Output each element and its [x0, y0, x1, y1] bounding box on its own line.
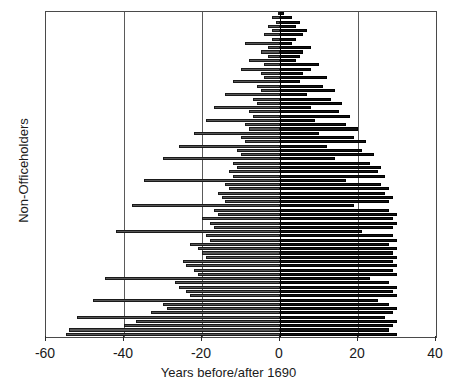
bar-before-1690 — [105, 277, 281, 280]
x-tick-label--20: -20 — [191, 345, 211, 361]
bar-before-1690 — [214, 226, 280, 229]
zero-axis-line — [280, 12, 281, 337]
bar-after-1690 — [280, 222, 397, 225]
bar-before-1690 — [194, 269, 280, 272]
bar-before-1690 — [268, 25, 280, 28]
bar-after-1690 — [280, 106, 311, 109]
bar-after-1690 — [280, 119, 315, 122]
bar-before-1690 — [257, 102, 280, 105]
bar-after-1690 — [280, 179, 346, 182]
bar-before-1690 — [241, 68, 280, 71]
bar-after-1690 — [280, 38, 296, 41]
bar-before-1690 — [272, 16, 280, 19]
x-tick-label-0: 0 — [275, 345, 283, 361]
bar-before-1690 — [136, 320, 280, 323]
bar-before-1690 — [186, 290, 280, 293]
bar-before-1690 — [261, 72, 281, 75]
bar-before-1690 — [268, 46, 280, 49]
bar-after-1690 — [280, 50, 303, 53]
bar-after-1690 — [280, 63, 319, 66]
bar-before-1690 — [179, 286, 280, 289]
bar-after-1690 — [280, 307, 397, 310]
bar-before-1690 — [198, 273, 280, 276]
bar-before-1690 — [77, 316, 280, 319]
bar-after-1690 — [280, 200, 389, 203]
bar-after-1690 — [280, 273, 397, 276]
x-tick-label--40: -40 — [113, 345, 133, 361]
bar-after-1690 — [280, 80, 300, 83]
bar-after-1690 — [280, 260, 393, 263]
bar-before-1690 — [272, 29, 280, 32]
bar-after-1690 — [280, 166, 381, 169]
bar-before-1690 — [206, 234, 280, 237]
bar-before-1690 — [198, 247, 280, 250]
x-tick-label-40: 40 — [427, 345, 443, 361]
bar-before-1690 — [245, 123, 280, 126]
bar-after-1690 — [280, 294, 397, 297]
bar-after-1690 — [280, 183, 381, 186]
bar-before-1690 — [237, 166, 280, 169]
bar-after-1690 — [280, 93, 307, 96]
plot-area — [45, 11, 437, 338]
bar-after-1690 — [280, 316, 385, 319]
bar-after-1690 — [280, 98, 331, 101]
bar-before-1690 — [233, 175, 280, 178]
bar-before-1690 — [206, 256, 280, 259]
bar-before-1690 — [264, 63, 280, 66]
bar-before-1690 — [151, 311, 280, 314]
bar-after-1690 — [280, 89, 335, 92]
bar-before-1690 — [229, 187, 280, 190]
bar-before-1690 — [66, 333, 281, 336]
bar-after-1690 — [280, 46, 311, 49]
bar-after-1690 — [280, 303, 389, 306]
bar-before-1690 — [272, 38, 280, 41]
bar-after-1690 — [280, 59, 296, 62]
bar-after-1690 — [280, 264, 397, 267]
bar-after-1690 — [280, 269, 393, 272]
bar-before-1690 — [183, 260, 281, 263]
bar-after-1690 — [280, 290, 393, 293]
bar-before-1690 — [124, 324, 280, 327]
bar-before-1690 — [194, 132, 280, 135]
bar-after-1690 — [280, 281, 389, 284]
bar-after-1690 — [280, 311, 393, 314]
bar-before-1690 — [249, 127, 280, 130]
bar-after-1690 — [280, 333, 397, 336]
bar-before-1690 — [249, 59, 280, 62]
bar-before-1690 — [214, 209, 280, 212]
bar-before-1690 — [218, 213, 280, 216]
bar-before-1690 — [253, 115, 280, 118]
bar-after-1690 — [280, 140, 366, 143]
bar-before-1690 — [132, 204, 280, 207]
bar-after-1690 — [280, 251, 393, 254]
bar-before-1690 — [261, 50, 281, 53]
bar-before-1690 — [261, 89, 281, 92]
bar-after-1690 — [280, 170, 378, 173]
bar-before-1690 — [210, 239, 280, 242]
bar-after-1690 — [280, 162, 370, 165]
bar-after-1690 — [280, 149, 362, 152]
bar-after-1690 — [280, 42, 292, 45]
bar-after-1690 — [280, 243, 389, 246]
bar-before-1690 — [69, 328, 280, 331]
x-tick-label--60: -60 — [35, 345, 55, 361]
bar-before-1690 — [214, 106, 280, 109]
bar-after-1690 — [280, 55, 300, 58]
bar-after-1690 — [280, 102, 342, 105]
y-axis-label: Non-Officeholders — [16, 86, 31, 256]
bar-after-1690 — [280, 187, 389, 190]
bar-after-1690 — [280, 115, 350, 118]
bar-after-1690 — [280, 175, 385, 178]
bar-after-1690 — [280, 157, 335, 160]
bar-after-1690 — [280, 328, 389, 331]
bar-after-1690 — [280, 277, 370, 280]
bar-before-1690 — [163, 303, 280, 306]
bar-series-container — [46, 12, 436, 337]
bar-after-1690 — [280, 16, 292, 19]
bar-before-1690 — [202, 217, 280, 220]
bar-after-1690 — [280, 153, 374, 156]
bar-before-1690 — [144, 179, 281, 182]
bar-after-1690 — [280, 213, 397, 216]
bar-after-1690 — [280, 324, 393, 327]
bar-before-1690 — [190, 243, 280, 246]
